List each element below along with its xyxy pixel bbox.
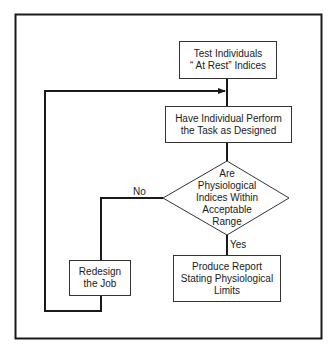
node-redesign-job: Redesign the Job <box>69 260 131 296</box>
label-yes: Yes <box>230 239 246 251</box>
node-produce-report-text: Produce Report Stating Physiological Lim… <box>181 261 273 297</box>
node-decision-text: Are Physiological Indices Within Accepta… <box>177 168 277 228</box>
node-test-at-rest-text: Test Individuals “ At Rest” Indices <box>190 48 266 72</box>
node-perform-task: Have Individual Perform the Task as Desi… <box>165 106 292 143</box>
node-redesign-job-text: Redesign the Job <box>79 266 121 290</box>
node-perform-task-text: Have Individual Perform the Task as Desi… <box>175 113 282 137</box>
flowchart-canvas <box>0 0 331 348</box>
connector-no <box>101 198 163 260</box>
node-produce-report: Produce Report Stating Physiological Lim… <box>173 255 281 302</box>
node-test-at-rest: Test Individuals “ At Rest” Indices <box>179 41 277 79</box>
label-no: No <box>133 186 146 198</box>
